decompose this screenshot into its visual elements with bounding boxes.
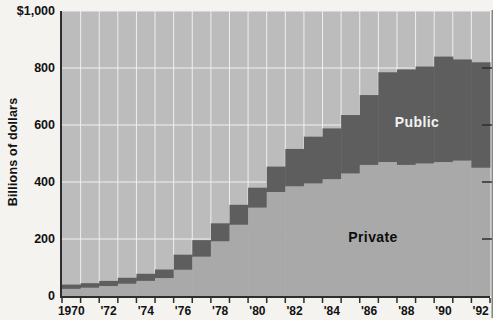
bar-public-1991 [453,59,472,160]
bar-public-1978 [211,223,230,241]
bar-public-1986 [360,95,379,165]
bar-private-1982 [285,186,304,296]
x-axis-tick [378,298,380,303]
x-axis-tick [136,298,138,303]
x-axis-tick [340,298,342,303]
x-tick-label-1982: '82 [286,304,302,318]
bar-private-1992 [471,168,490,296]
x-axis-tick [61,298,63,303]
y-tick-label-200: 200 [34,232,55,246]
x-tick-label-1984: '84 [324,304,340,318]
chart-plot-canvas [0,0,493,320]
bar-public-1973 [118,278,137,284]
x-axis-tick [229,298,231,303]
x-axis-tick [303,298,305,303]
x-axis-tick [471,298,473,303]
x-axis-line [60,296,490,298]
vertical-gridline [80,11,81,296]
bar-public-1983 [304,137,323,184]
x-tick-label-1974: '74 [138,304,154,318]
y-tick-label-600: 600 [34,118,55,132]
bar-private-1976 [174,270,193,296]
bar-public-1971 [81,283,100,288]
bar-public-1974 [136,274,155,281]
bar-private-1981 [267,192,286,296]
x-axis-tick [359,298,361,303]
y-tick-label-400: 400 [34,175,55,189]
bar-public-1981 [267,167,286,192]
bar-public-1982 [285,149,304,186]
x-axis-tick [322,298,324,303]
x-tick-label-1992: '92 [473,304,489,318]
bar-private-1970 [62,289,81,296]
x-axis-tick [415,298,417,303]
horizontal-gridline [62,11,490,12]
right-axis-tick [482,67,492,69]
x-axis-tick [98,298,100,303]
x-axis-tick [154,298,156,303]
private-series-label: Private [348,229,398,245]
bar-public-1984 [323,128,342,179]
bar-private-1973 [118,284,137,296]
x-tick-label-1976: '76 [175,304,191,318]
bar-private-1977 [192,257,211,296]
vertical-gridline [155,11,156,296]
bar-private-1980 [248,208,267,296]
x-axis-tick [285,298,287,303]
x-axis-tick [452,298,454,303]
bar-public-1975 [155,269,174,278]
bar-public-1992 [471,62,490,167]
x-tick-label-1978: '78 [212,304,228,318]
x-axis-tick [489,298,491,303]
bar-private-1978 [211,241,230,296]
x-axis-tick [210,298,212,303]
bar-private-1988 [397,165,416,296]
x-axis-tick [433,298,435,303]
right-axis-tick [482,238,492,240]
bar-private-1984 [323,179,342,296]
y-axis-line [60,11,62,298]
right-axis-tick [482,181,492,183]
x-axis-tick [192,298,194,303]
bar-private-1972 [99,286,118,296]
x-tick-label-1990: '90 [435,304,451,318]
vertical-gridline [173,11,174,296]
bar-private-1991 [453,161,472,296]
bar-private-1990 [434,162,453,296]
x-tick-label-1988: '88 [398,304,414,318]
bar-private-1989 [416,163,435,296]
x-axis-tick [80,298,82,303]
y-tick-label-800: 800 [34,61,55,75]
vertical-gridline [99,11,100,296]
bar-private-1979 [229,225,248,296]
x-tick-label-1986: '86 [361,304,377,318]
bar-public-1985 [341,115,360,173]
x-axis-tick [173,298,175,303]
x-axis-tick [247,298,249,303]
vertical-gridline [136,11,137,296]
x-axis-tick [266,298,268,303]
bar-private-1971 [81,288,100,296]
bar-private-1975 [155,278,174,296]
bar-public-1970 [62,285,81,289]
vertical-gridline [117,11,118,296]
bar-public-1977 [192,240,211,257]
x-tick-label-1970: 1970 [58,304,85,318]
y-tick-label-0: 0 [48,289,55,303]
x-axis-tick [396,298,398,303]
bar-public-1990 [434,57,453,162]
bar-private-1974 [136,281,155,296]
x-axis-tick [117,298,119,303]
bar-public-1980 [248,188,267,208]
x-tick-label-1980: '80 [249,304,265,318]
y-axis-title: Billions of dollars [6,98,20,207]
bar-public-1979 [229,205,248,225]
public-series-label: Public [395,114,439,130]
bar-public-1972 [99,281,118,286]
stacked-area-chart: Billions of dollars 0200400600800$1,000 … [0,0,493,320]
right-axis-tick [482,124,492,126]
x-tick-label-1972: '72 [100,304,116,318]
bar-private-1983 [304,183,323,296]
bar-public-1976 [174,255,193,270]
y-tick-label-1000: $1,000 [17,4,55,18]
